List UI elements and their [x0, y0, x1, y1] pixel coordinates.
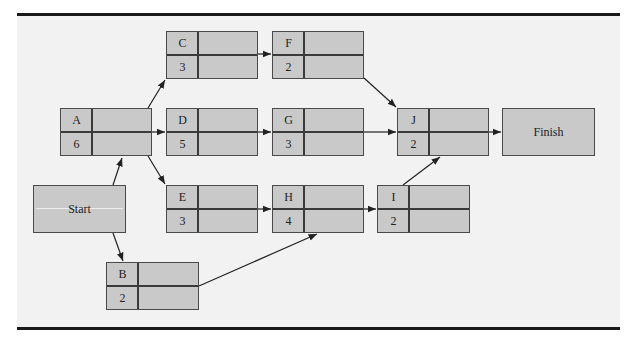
node-start: Start [33, 185, 126, 233]
activity-id: C [167, 32, 198, 55]
node-j: J 2 [397, 108, 489, 156]
activity-duration: 2 [273, 56, 304, 79]
activity-duration: 2 [378, 210, 409, 233]
activity-id: I [378, 186, 409, 209]
edge-a-e [148, 156, 165, 184]
activity-id: E [167, 186, 198, 209]
activity-duration: 5 [167, 133, 198, 156]
node-i: I 2 [377, 185, 470, 233]
node-g: G 3 [272, 108, 364, 156]
node-finish-label: Finish [533, 125, 563, 140]
activity-id: D [167, 109, 198, 132]
edge-start-a [113, 158, 122, 185]
node-f: F 2 [272, 31, 364, 79]
node-b: B 2 [106, 262, 199, 310]
node-finish: Finish [502, 108, 595, 156]
activity-duration: 3 [167, 56, 198, 79]
edge-b-h [199, 234, 317, 286]
node-start-label: Start [68, 202, 91, 217]
edge-a-c [148, 80, 165, 108]
edge-f-j [364, 78, 396, 107]
activity-id: F [273, 32, 304, 55]
activity-duration: 4 [273, 210, 304, 233]
activity-id: G [273, 109, 304, 132]
activity-id: H [273, 186, 304, 209]
activity-id: A [61, 109, 92, 132]
activity-duration: 6 [61, 133, 92, 156]
activity-duration: 3 [273, 133, 304, 156]
activity-id: J [398, 109, 429, 132]
edge-i-j [403, 157, 440, 185]
node-e: E 3 [166, 185, 258, 233]
node-a: A 6 [60, 108, 152, 156]
activity-duration: 2 [398, 133, 429, 156]
activity-duration: 3 [167, 210, 198, 233]
activity-duration: 2 [107, 287, 138, 310]
node-c: C 3 [166, 31, 258, 79]
activity-id: B [107, 263, 138, 286]
edge-start-b [113, 233, 123, 261]
node-h: H 4 [272, 185, 364, 233]
node-d: D 5 [166, 108, 258, 156]
